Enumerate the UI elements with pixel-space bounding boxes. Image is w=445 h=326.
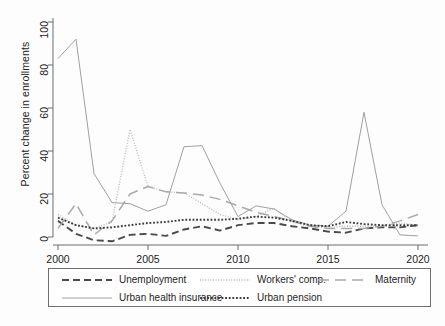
legend-swatch-icon xyxy=(61,274,113,286)
series-line-urban-health-insurance xyxy=(58,39,418,236)
chart-legend: UnemploymentWorkers' comp.Maternity Urba… xyxy=(48,268,431,307)
y-tick-label: 100 xyxy=(38,21,50,47)
legend-item-urban-pension[interactable]: Urban pension xyxy=(199,288,322,307)
legend-swatch-icon xyxy=(199,292,251,304)
legend-label: Maternity xyxy=(375,275,416,285)
legend-label: Unemployment xyxy=(119,275,186,285)
plot-area: Percent change in enrollments 0204060801… xyxy=(0,0,445,262)
x-tick-label: 2000 xyxy=(35,253,81,265)
y-tick-label: 60 xyxy=(38,107,50,133)
legend-row-1: UnemploymentWorkers' comp.Maternity xyxy=(49,270,430,289)
series-line-workers-comp xyxy=(58,130,418,229)
legend-swatch-icon xyxy=(61,292,113,304)
legend-row-2: Urban health insuranceUrban pension xyxy=(49,288,430,307)
y-tick-label: 40 xyxy=(38,150,50,176)
y-tick-label: 80 xyxy=(38,64,50,90)
x-tick-label: 2005 xyxy=(125,253,171,265)
series-line-maternity xyxy=(58,186,418,234)
legend-item-maternity[interactable]: Maternity xyxy=(317,270,416,289)
x-tick-label: 2020 xyxy=(395,253,441,265)
legend-item-unemployment[interactable]: Unemployment xyxy=(61,270,186,289)
legend-item-workers-comp[interactable]: Workers' comp. xyxy=(199,270,326,289)
chart-svg xyxy=(0,0,445,262)
y-axis-title: Percent change in enrollments xyxy=(19,14,31,214)
chart-figure: Percent change in enrollments 0204060801… xyxy=(0,0,445,326)
legend-swatch-icon xyxy=(317,274,369,286)
legend-swatch-icon xyxy=(199,274,251,286)
legend-label: Workers' comp. xyxy=(257,275,326,285)
x-tick-label: 2015 xyxy=(305,253,351,265)
series-group xyxy=(58,39,418,241)
x-tick-label: 2010 xyxy=(215,253,261,265)
y-tick-label: 20 xyxy=(38,193,50,219)
axis-group xyxy=(48,18,428,250)
legend-label: Urban pension xyxy=(257,293,322,303)
